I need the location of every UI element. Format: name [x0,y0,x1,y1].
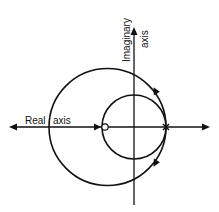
diagram-svg: Real axis Imaginary axis [0,0,219,212]
imaginary-axis-label-word2: axis [139,30,150,48]
real-axis-label-word1: Real [25,115,46,126]
locus-direction-arrow-icon [94,124,101,131]
real-axis-label-word2: axis [53,115,71,126]
imaginary-axis-label-word1: Imaginary [121,18,132,62]
real-axis-left-arrow-icon [9,124,17,131]
root-locus-diagram: Real axis Imaginary axis [0,0,219,212]
zero-marker-icon [102,124,108,130]
real-axis-right-arrow-icon [202,124,210,131]
